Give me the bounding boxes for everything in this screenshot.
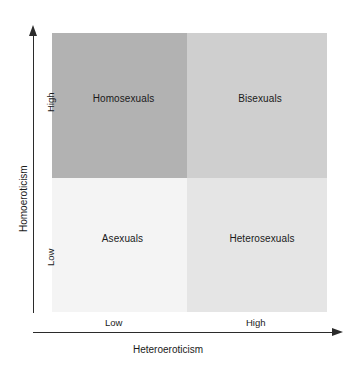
y-axis-tick-high: High — [46, 92, 56, 112]
quadrant-label-heterosexuals: Heterosexuals — [229, 234, 294, 244]
y-axis-tick-low: Low — [46, 249, 56, 266]
y-axis-arrow-icon — [29, 25, 37, 36]
quadrant-bisexuals: Bisexuals — [187, 33, 327, 178]
y-axis-line — [33, 36, 34, 313]
quadrant-diagram-figure: Homosexuals Bisexuals Asexuals Heterosex… — [0, 0, 354, 366]
quadrant-label-asexuals: Asexuals — [102, 234, 143, 244]
quadrant-heterosexuals: Heterosexuals — [187, 178, 327, 312]
quadrant-label-bisexuals: Bisexuals — [238, 94, 282, 104]
x-axis-title: Heteroeroticism — [133, 345, 203, 355]
quadrant-matrix: Homosexuals Bisexuals Asexuals Heterosex… — [52, 33, 327, 312]
quadrant-label-homosexuals: Homosexuals — [93, 94, 155, 104]
quadrant-asexuals: Asexuals — [52, 178, 187, 312]
x-axis-tick-high: High — [246, 318, 266, 328]
x-axis-arrow-icon — [332, 328, 343, 336]
x-axis-tick-low: Low — [105, 318, 122, 328]
quadrant-homosexuals: Homosexuals — [52, 33, 187, 178]
y-axis-title: Homoeroticism — [19, 165, 29, 232]
x-axis-line — [33, 332, 334, 333]
